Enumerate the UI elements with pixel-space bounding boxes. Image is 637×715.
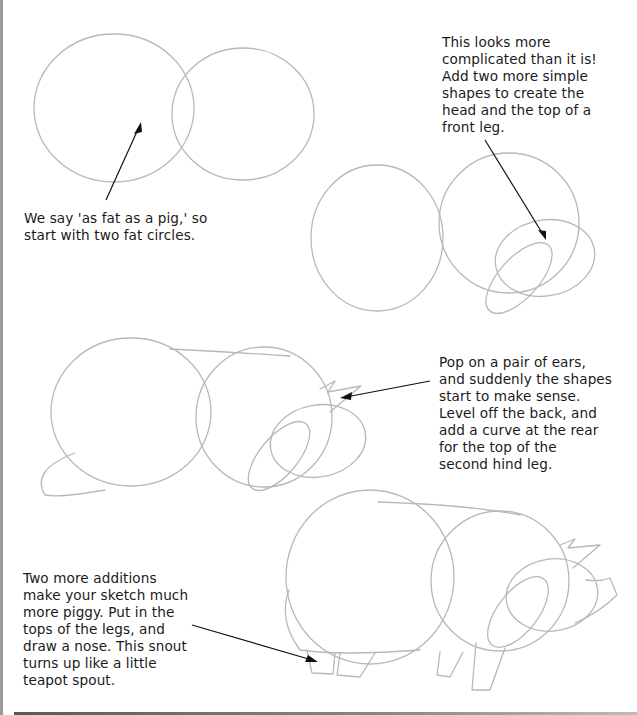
step-2-caption: This looks more complicated than it is! … xyxy=(442,34,597,136)
step-2-sketch xyxy=(311,140,601,324)
step-3-sketch xyxy=(41,338,430,500)
step-4-caption: Two more additions make your sketch much… xyxy=(23,570,188,689)
step-1-sketch xyxy=(34,34,314,200)
step-1-caption: We say 'as fat as a pig,' so start with … xyxy=(24,210,207,244)
step-3-caption: Pop on a pair of ears, and suddenly the … xyxy=(439,354,612,473)
step-4-sketch xyxy=(192,490,617,690)
tutorial-page: We say 'as fat as a pig,' so start with … xyxy=(0,0,637,715)
